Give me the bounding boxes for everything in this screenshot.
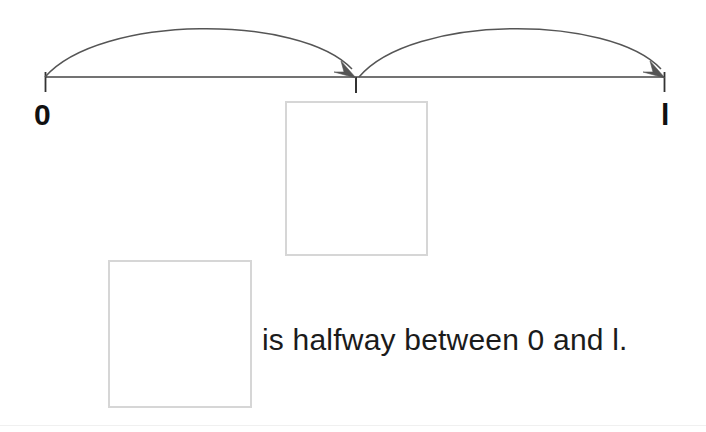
hop-arc-right-arrowhead [643, 61, 665, 78]
answer-box-top[interactable] [285, 101, 428, 256]
bottom-separator [0, 425, 706, 426]
hop-arc-left [45, 29, 352, 77]
number-line-label-zero: 0 [34, 100, 51, 130]
sentence-text: is halfway between 0 and l. [262, 324, 628, 356]
number-line-label-one: l [661, 100, 669, 130]
hop-arc-right [359, 29, 661, 77]
hop-arc-left-arrowhead [334, 61, 356, 78]
worksheet-canvas: 0 l is halfway between 0 and l. [0, 0, 706, 432]
answer-box-bottom[interactable] [108, 260, 252, 408]
